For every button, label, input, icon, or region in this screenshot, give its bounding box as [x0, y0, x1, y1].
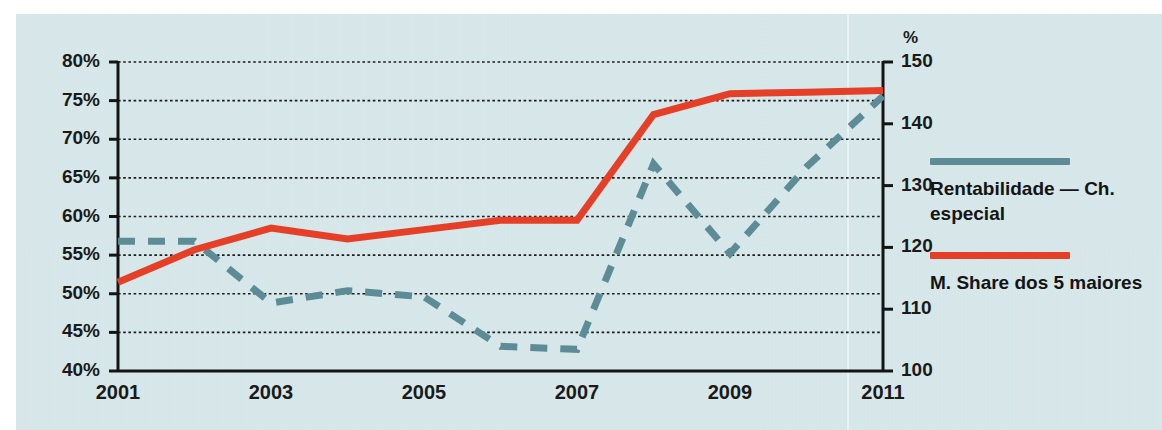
left-axis-tick-label: 40% [38, 359, 100, 381]
legend: Rentabilidade — Ch. especial M. Share do… [930, 158, 1145, 309]
left-axis-tick-label: 70% [38, 127, 100, 149]
right-axis-tick-label: 150 [901, 50, 951, 72]
legend-label-rentabilidade: Rentabilidade — Ch. especial [930, 176, 1145, 226]
left-axis-tick-label: 50% [38, 282, 100, 304]
left-axis-tick-label: 65% [38, 166, 100, 188]
x-axis-tick-label: 2001 [78, 381, 158, 404]
x-axis-tick-label: 2005 [384, 381, 464, 404]
legend-entry-rentabilidade: Rentabilidade — Ch. especial [930, 158, 1145, 226]
x-axis-tick-label: 2011 [843, 381, 923, 404]
legend-label-mshare: M. Share dos 5 maiores [930, 270, 1145, 295]
right-axis-tick-label: 100 [901, 359, 951, 381]
x-axis-tick-label: 2009 [690, 381, 770, 404]
x-axis-tick-label: 2007 [537, 381, 617, 404]
left-axis-tick-label: 80% [38, 50, 100, 72]
right-axis-unit: % [903, 28, 918, 48]
gridlines [118, 62, 883, 332]
legend-entry-mshare: M. Share dos 5 maiores [930, 252, 1145, 295]
x-axis-tick-label: 2003 [231, 381, 311, 404]
legend-swatch-rentabilidade [930, 158, 1070, 165]
left-axis-tick-label: 75% [38, 89, 100, 111]
right-axis-tick-label: 140 [901, 112, 951, 134]
left-axis-tick-label: 60% [38, 205, 100, 227]
series-line-mshare [118, 91, 883, 283]
chart-figure: 40%45%50%55%60%65%70%75%80% 100110120130… [0, 0, 1162, 430]
left-axis-tick-label: 45% [38, 320, 100, 342]
left-axis-tick-label: 55% [38, 243, 100, 265]
legend-swatch-mshare [930, 252, 1070, 259]
